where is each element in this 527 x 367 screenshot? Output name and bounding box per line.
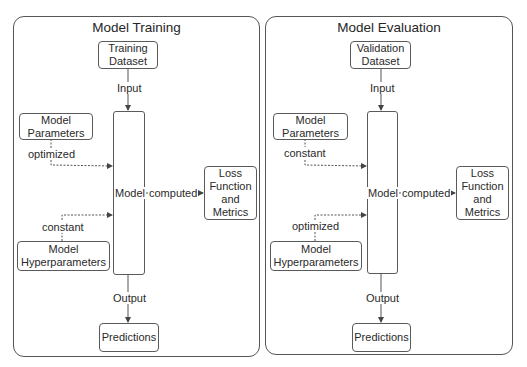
predictions-box: Predictions [352, 323, 411, 352]
input-label: Input [116, 82, 142, 94]
model-label: Model [367, 187, 399, 199]
output-label: Output [112, 292, 147, 304]
hyper-constant-label: constant [41, 221, 85, 233]
panel-title: Model Evaluation [266, 20, 512, 35]
output-label: Output [365, 292, 400, 304]
panel-title: Model Training [14, 20, 259, 35]
training-dataset-box: Training Dataset [98, 41, 158, 69]
model-parameters-box: Model Parameters [19, 113, 93, 140]
computed-label: computed [148, 187, 198, 199]
model-parameters-box: Model Parameters [273, 113, 348, 140]
input-label: Input [369, 82, 395, 94]
loss-function-box: Loss Function and Metrics [456, 166, 509, 220]
loss-function-box: Loss Function and Metrics [204, 166, 257, 220]
model-hyperparameters-box: Model Hyperparameters [270, 241, 362, 271]
computed-label: computed [401, 187, 451, 199]
params-constant-label: constant [283, 147, 327, 159]
validation-dataset-box: Validation Dataset [350, 41, 411, 69]
model-hyperparameters-box: Model Hyperparameters [17, 241, 110, 271]
hyper-optimized-label: optimized [291, 220, 340, 232]
params-optimized-label: optimized [27, 148, 76, 160]
model-label: Model [114, 187, 146, 199]
predictions-box: Predictions [99, 323, 159, 352]
